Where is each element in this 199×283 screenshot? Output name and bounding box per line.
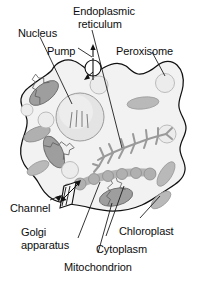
peroxisome-3 <box>38 112 54 128</box>
label-endoplasmic: Endoplasmic <box>73 5 135 17</box>
label-peroxisome: Peroxisome <box>116 45 173 57</box>
label-mitochondrion: Mitochondrion <box>64 261 132 273</box>
label-reticulum: reticulum <box>78 18 122 30</box>
label-golgi: Golgi <box>21 226 46 238</box>
peroxisome-6 <box>21 104 33 116</box>
cell-diagram-figure: Nucleus Endoplasmic reticulum Pump Perox… <box>0 0 199 283</box>
label-cytoplasm: Cytoplasm <box>96 243 147 255</box>
peroxisome-5 <box>62 162 79 179</box>
leader-pump <box>78 48 92 57</box>
peroxisome-2 <box>156 74 175 93</box>
label-chloroplast: Chloroplast <box>119 225 174 237</box>
label-pump: Pump <box>47 45 75 57</box>
label-golgi-apparatus: apparatus <box>21 239 69 251</box>
label-channel: Channel <box>10 202 50 214</box>
nucleus <box>56 93 104 141</box>
label-nucleus: Nucleus <box>18 27 57 39</box>
